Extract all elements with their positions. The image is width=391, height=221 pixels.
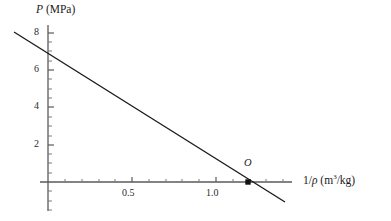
data-line-series-1 <box>14 32 285 202</box>
chart-canvas <box>0 0 391 221</box>
y-axis-title: P (MPa) <box>36 4 75 16</box>
y-axis-unit: (MPa) <box>43 3 75 15</box>
x-axis-unit-open: (m <box>317 174 333 186</box>
x-axis-title: 1/ρ (m3/kg) <box>303 174 355 186</box>
y-tick-label-8: 8 <box>34 27 39 37</box>
chart-figure: P (MPa) 1/ρ (m3/kg) O 8 6 4 2 0.5 1.0 <box>0 0 391 221</box>
x-axis-unit-close: /kg) <box>337 174 356 186</box>
annotation-label-o: O <box>244 158 252 169</box>
y-tick-label-2: 2 <box>34 139 39 149</box>
x-axis-prefix: 1/ <box>303 174 312 186</box>
data-point-marker-o <box>245 179 250 184</box>
x-tick-label-1-0: 1.0 <box>206 188 219 198</box>
x-tick-label-0-5: 0.5 <box>122 188 135 198</box>
y-tick-label-6: 6 <box>34 64 39 74</box>
y-tick-label-4: 4 <box>34 101 39 111</box>
y-axis-symbol: P <box>36 3 43 15</box>
